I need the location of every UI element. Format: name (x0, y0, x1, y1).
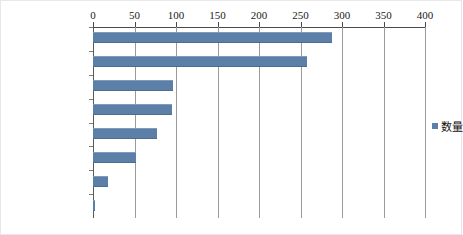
category-tick-mark (89, 194, 93, 195)
bar-row: 指导性案例案号 (93, 194, 425, 218)
category-tick-mark (89, 27, 93, 28)
x-tick-label: 100 (168, 9, 185, 21)
x-tick-label: 50 (129, 9, 140, 21)
category-tick-mark (89, 146, 93, 147)
legend-swatch-icon (432, 123, 438, 129)
category-tick-mark (89, 170, 93, 171)
category-tick-mark (89, 99, 93, 100)
chart-legend: 数量 (432, 118, 463, 134)
x-tick-label: 200 (251, 9, 268, 21)
bar-row: 发布主体 (93, 27, 425, 51)
bar (93, 32, 332, 43)
x-tick-label: 0 (90, 9, 96, 21)
bar-row: 裁判要点 (93, 123, 425, 147)
gridline (425, 27, 426, 218)
legend-label: 数量 (441, 118, 463, 134)
x-tick-label: 400 (417, 9, 434, 21)
bar (93, 80, 173, 91)
bar-row: 指导性案例编号 (93, 51, 425, 75)
category-tick-mark (89, 75, 93, 76)
bar (93, 176, 108, 187)
x-tick-label: 350 (375, 9, 392, 21)
bar-row: 指导性案例字号 (93, 170, 425, 194)
plot-area: 发布主体指导性案例编号发布批次发布日期裁判要点指导性案例标题指导性案例字号指导性… (93, 27, 425, 218)
x-tick-label: 300 (334, 9, 351, 21)
bar-row: 发布日期 (93, 99, 425, 123)
x-tick-label: 150 (209, 9, 226, 21)
bar (93, 128, 157, 139)
category-tick-mark (89, 51, 93, 52)
bar (93, 104, 172, 115)
bar (93, 200, 95, 211)
category-tick-mark (89, 123, 93, 124)
bar (93, 152, 136, 163)
x-tick-label: 250 (292, 9, 309, 21)
bar-row: 指导性案例标题 (93, 146, 425, 170)
bar-row: 发布批次 (93, 75, 425, 99)
bar (93, 56, 307, 67)
